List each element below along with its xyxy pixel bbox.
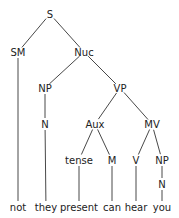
tree-node-label: V: [133, 155, 140, 166]
tree-node-label: NP: [38, 83, 52, 94]
tree-nodes: SSMNucNPVPNAuxMVtenseMVNPNnottheypresent…: [10, 9, 171, 213]
tree-edge: [98, 93, 116, 119]
tree-leaf-word: they: [35, 202, 57, 213]
tree-leaf-word: not: [10, 202, 26, 213]
tree-edge: [81, 130, 92, 155]
tree-edge: [154, 130, 161, 154]
tree-edge: [49, 56, 79, 84]
tree-edge: [124, 93, 148, 120]
tree-node-label: N: [41, 119, 48, 130]
syntax-tree-diagram: SSMNucNPVPNAuxMVtenseMVNPNnottheypresent…: [0, 0, 179, 218]
tree-node-label: VP: [114, 83, 127, 94]
tree-node-label: tense: [65, 155, 93, 166]
tree-node-label: MV: [144, 119, 160, 130]
tree-leaf-word: can: [103, 202, 121, 213]
tree-node-label: SM: [11, 47, 26, 58]
tree-leaf-word: present: [60, 202, 98, 213]
tree-edge: [138, 130, 149, 155]
tree-edge: [88, 56, 116, 84]
tree-node-label: Nuc: [74, 47, 93, 58]
tree-edge: [22, 19, 46, 48]
tree-leaf-word: hear: [125, 202, 149, 213]
tree-edge: [45, 130, 46, 201]
tree-node-label: NP: [155, 155, 169, 166]
tree-edge: [54, 19, 80, 48]
tree-node-label: S: [47, 9, 53, 20]
tree-node-label: M: [108, 155, 117, 166]
tree-edge: [98, 129, 110, 154]
tree-leaf-word: you: [153, 202, 171, 213]
tree-node-label: Aux: [85, 119, 104, 130]
tree-node-label: N: [158, 179, 165, 190]
